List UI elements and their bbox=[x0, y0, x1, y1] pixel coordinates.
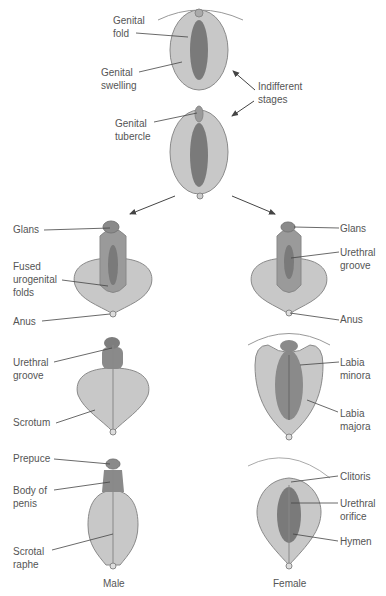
caption-male: Male bbox=[103, 578, 125, 589]
female-stage-1 bbox=[251, 222, 327, 316]
diagram-graphics bbox=[0, 0, 386, 596]
label-scrotal-raphe: Scrotal raphe bbox=[13, 545, 44, 571]
label-hymen: Hymen bbox=[340, 535, 372, 548]
caption-female: Female bbox=[273, 578, 306, 589]
label-urethral-orifice: Urethral orifice bbox=[340, 497, 376, 523]
label-male-glans: Glans bbox=[13, 223, 39, 236]
label-genital-swelling: Genital swelling bbox=[101, 66, 137, 92]
label-genital-tubercle: Genital tubercle bbox=[115, 117, 151, 143]
label-female-urethral-groove: Urethral groove bbox=[340, 246, 376, 272]
indifferent-stage-1 bbox=[158, 9, 243, 90]
label-female-glans: Glans bbox=[340, 222, 366, 235]
male-stage-1 bbox=[74, 221, 152, 317]
label-genital-fold: Genital fold bbox=[113, 14, 145, 40]
label-labia-minora: Labia minora bbox=[340, 356, 371, 382]
female-stage-2 bbox=[248, 334, 330, 441]
label-clitoris: Clitoris bbox=[340, 470, 371, 483]
label-male-urethral-groove: Urethral groove bbox=[13, 356, 49, 382]
label-body-of-penis: Body of penis bbox=[13, 484, 47, 510]
label-fused-urogenital-folds: Fused urogenital folds bbox=[13, 260, 57, 299]
label-indifferent-stages: Indifferent stages bbox=[258, 80, 302, 106]
label-male-anus: Anus bbox=[13, 315, 36, 328]
label-scrotum: Scrotum bbox=[13, 416, 50, 429]
female-stage-3 bbox=[248, 458, 330, 569]
indifferent-stage-2 bbox=[170, 106, 228, 199]
label-prepuce: Prepuce bbox=[13, 452, 50, 465]
male-stage-3 bbox=[88, 459, 138, 569]
label-labia-majora: Labia majora bbox=[340, 407, 371, 433]
male-stage-2 bbox=[77, 337, 149, 435]
label-female-anus: Anus bbox=[340, 313, 363, 326]
